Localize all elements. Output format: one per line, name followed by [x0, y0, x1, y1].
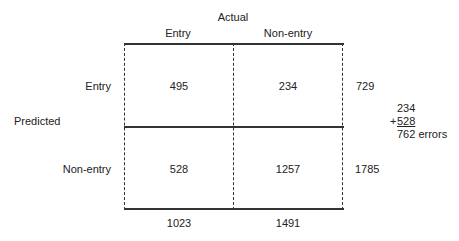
right-border: [342, 43, 343, 210]
errors-addend-2: 528: [397, 116, 415, 127]
column-divider: [233, 43, 234, 210]
row-total-entry: 729: [356, 81, 374, 92]
errors-addend-1: 234: [397, 103, 415, 114]
cell-non-entry-non-entry: 1257: [276, 164, 300, 175]
cell-non-entry-entry: 528: [170, 164, 188, 175]
cell-entry-entry: 495: [170, 81, 188, 92]
column-total-entry: 1023: [167, 218, 191, 229]
predicted-label: Predicted: [14, 116, 60, 127]
bottom-border: [124, 208, 344, 210]
column-header-non-entry: Non-entry: [264, 28, 312, 39]
middle-divider: [124, 126, 344, 128]
top-border: [124, 43, 344, 45]
column-total-non-entry: 1491: [276, 218, 300, 229]
errors-plus-sign: +: [390, 116, 396, 127]
row-label-non-entry: Non-entry: [63, 164, 111, 175]
errors-total: 762 errors: [397, 129, 447, 140]
actual-header: Actual: [218, 12, 249, 23]
row-total-non-entry: 1785: [355, 164, 379, 175]
column-header-entry: Entry: [165, 28, 191, 39]
row-label-entry: Entry: [85, 81, 111, 92]
cell-entry-non-entry: 234: [279, 81, 297, 92]
left-border: [124, 43, 125, 210]
